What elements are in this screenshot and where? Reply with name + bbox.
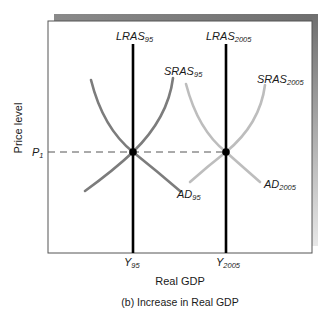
price-level-p1-label: P1	[32, 146, 44, 160]
y-axis-label: Price level	[12, 103, 24, 154]
equilibrium-point-95	[129, 148, 137, 156]
x-tick-y95-label: Y95	[124, 256, 141, 270]
figure-caption: (b) Increase in Real GDP	[121, 296, 238, 308]
plot-frame	[48, 21, 312, 253]
equilibrium-point-2005	[222, 148, 230, 156]
x-tick-y2005-label: Y2005	[216, 256, 241, 270]
frame-shadow-right	[312, 14, 318, 246]
x-axis-label: Real GDP	[155, 275, 205, 287]
aggregate-supply-demand-diagram: LRAS95 LRAS2005 SRAS95 SRAS2005 AD95 AD2…	[0, 0, 329, 316]
